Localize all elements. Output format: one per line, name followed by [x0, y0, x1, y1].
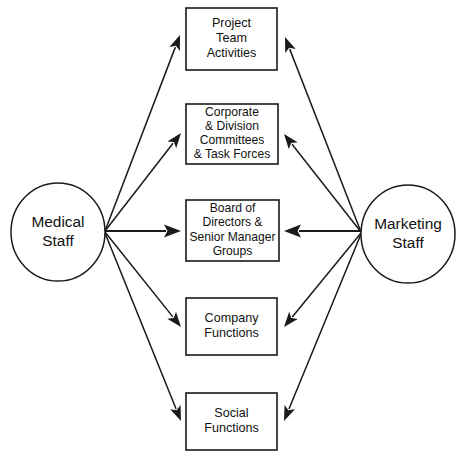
edge-medical-to-project-team: [105, 35, 180, 231]
arrow-head-icon: [284, 312, 298, 327]
edge-line: [105, 232, 173, 317]
node-marketing-staff[interactable]: MarketingStaff: [361, 185, 455, 283]
edge-line: [289, 234, 361, 409]
node-label-line: Senior Manager: [189, 230, 275, 244]
node-social-functions[interactable]: SocialFunctions: [186, 393, 277, 450]
node-label-line: Project: [212, 16, 252, 30]
arrow-head-icon: [167, 133, 181, 148]
edge-marketing-to-corporate-committees: [284, 134, 361, 232]
node-label-line: Board of: [210, 201, 256, 215]
node-label-line: Marketing: [374, 215, 442, 232]
arrow-head-icon: [284, 225, 301, 238]
node-label-line: Functions: [204, 421, 259, 435]
node-label-line: Medical: [31, 213, 84, 230]
edge-medical-to-social-functions: [105, 233, 181, 421]
diagram-canvas: ProjectTeamActivitiesCorporate& Division…: [0, 0, 463, 456]
diagram-svg: ProjectTeamActivitiesCorporate& Division…: [0, 0, 463, 456]
edge-line: [292, 233, 361, 317]
node-label-line: Functions: [204, 326, 259, 340]
edge-medical-to-corporate-committees: [105, 133, 181, 231]
edge-medical-to-company-functions: [105, 232, 181, 327]
node-label-line: Team: [216, 31, 247, 45]
node-label-line: Staff: [392, 234, 424, 251]
node-project-team-activities[interactable]: ProjectTeamActivities: [186, 8, 277, 70]
node-label-line: & Division: [205, 119, 259, 133]
node-label-line: Committees: [200, 133, 265, 147]
edge-marketing-to-social-functions: [284, 234, 361, 421]
node-medical-staff[interactable]: MedicalStaff: [11, 183, 105, 281]
edge-line: [105, 47, 175, 231]
node-label-line: Staff: [42, 232, 74, 249]
node-label: CompanyFunctions: [204, 311, 259, 340]
edge-marketing-to-company-functions: [284, 233, 361, 327]
node-label-line: Directors &: [203, 216, 263, 230]
node-label-line: Groups: [213, 244, 253, 258]
node-board-of-directors[interactable]: Board ofDirectors &Senior ManagerGroups: [186, 200, 279, 261]
node-label: Corporate& DivisionCommittees& Task Forc…: [194, 105, 270, 162]
node-label-line: & Task Forces: [194, 148, 270, 162]
node-label-line: Corporate: [205, 105, 259, 119]
edge-line: [105, 233, 176, 409]
arrow-head-icon: [164, 225, 181, 238]
node-company-functions[interactable]: CompanyFunctions: [186, 298, 277, 355]
nodes-layer: ProjectTeamActivitiesCorporate& Division…: [11, 8, 455, 450]
edge-marketing-to-project-team: [285, 37, 361, 232]
node-label-line: Social: [214, 406, 248, 420]
arrow-head-icon: [167, 312, 181, 327]
edge-line: [290, 49, 361, 232]
node-corporate-division-committees[interactable]: Corporate& DivisionCommittees& Task Forc…: [186, 104, 278, 164]
edge-medical-to-board-of-directors: [105, 225, 181, 238]
edge-line: [105, 143, 173, 231]
node-label-line: Company: [205, 311, 260, 325]
node-label-line: Activities: [207, 46, 257, 60]
edge-line: [292, 144, 361, 232]
arrow-head-icon: [284, 134, 298, 149]
edge-marketing-to-board-of-directors: [284, 225, 361, 238]
